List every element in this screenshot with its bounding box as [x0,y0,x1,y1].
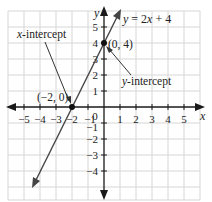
y-intercept-coords: (0, 4) [108,38,133,51]
x-intercept-title: x-intercept [16,28,67,41]
y-tick-m4: −4 [86,165,98,177]
y-tick-p1: 1 [93,85,99,97]
x-tick-p3: 3 [149,113,155,125]
y-tick-m3: −3 [86,149,98,161]
x-axis [6,103,205,111]
x-tick-p4: 4 [165,113,171,125]
y-intercept-title: y-intercept [121,75,172,88]
equation-label: y = 2x + 4 [122,12,171,26]
y-axis-label: y [93,6,100,20]
y-tick-m2: −2 [86,133,98,145]
y-axis [100,6,108,200]
x-tick-p1: 1 [117,113,123,125]
coordinate-plane: −5 −4 −3 −2 −1 1 2 3 4 5 0 5 4 3 2 1 −1 … [0,0,212,202]
x-tick-m4: −4 [34,113,46,125]
x-tick-m5: −5 [18,113,30,125]
x-axis-label: x [199,109,206,123]
arrow-down-icon [100,190,108,200]
x-intercept-point [69,104,75,110]
y-intercept-point [101,40,107,46]
y-tick-p4: 4 [93,37,99,49]
x-intercept-coords: (−2, 0) [37,91,69,104]
x-tick-p5: 5 [181,113,187,125]
y-tick-m1: −1 [86,121,98,133]
x-tick-m3: −3 [50,113,62,125]
y-tick-p2: 2 [93,69,99,81]
y-tick-p5: 5 [93,21,99,33]
x-tick-p2: 2 [133,113,139,125]
